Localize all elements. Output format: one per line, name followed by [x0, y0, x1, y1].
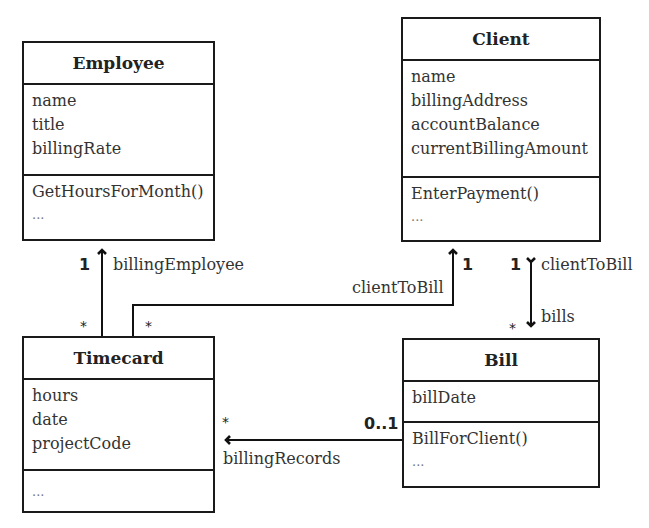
class-employee-operations: GetHoursForMonth() ... — [24, 176, 213, 230]
role-billing-employee: billingEmployee — [113, 255, 244, 274]
multiplicity-bill: * — [509, 320, 516, 336]
operation-ellipsis: ... — [412, 451, 590, 473]
operation-ellipsis: ... — [32, 204, 205, 226]
class-bill-attributes: billDate — [404, 382, 598, 423]
attribute: hours — [32, 384, 205, 408]
multiplicity-client-bill: 1 — [510, 255, 521, 274]
multiplicity-timecard-client: * — [145, 318, 152, 334]
attribute: currentBillingAmount — [411, 137, 591, 161]
attribute: date — [32, 408, 205, 432]
class-employee[interactable]: Employee name title billingRate GetHours… — [22, 41, 215, 241]
role-client-to-bill-2: clientToBill — [541, 255, 633, 274]
multiplicity-bill-source: 0..1 — [364, 414, 398, 433]
attribute: billingAddress — [411, 89, 591, 113]
operation: BillForClient() — [412, 427, 590, 451]
operation: EnterPayment() — [411, 182, 591, 206]
class-bill-name: Bill — [404, 340, 598, 382]
role-client-to-bill: clientToBill — [352, 278, 444, 297]
attribute: title — [32, 113, 205, 137]
attribute: projectCode — [32, 432, 205, 456]
role-billing-records: billingRecords — [223, 449, 340, 468]
attribute: accountBalance — [411, 113, 591, 137]
role-bills: bills — [541, 307, 575, 326]
class-client-name: Client — [403, 19, 599, 61]
class-timecard-attributes: hours date projectCode — [24, 380, 213, 471]
class-timecard[interactable]: Timecard hours date projectCode ... — [22, 336, 215, 513]
class-client-operations: EnterPayment() ... — [403, 178, 599, 232]
attribute: name — [32, 89, 205, 113]
class-employee-name: Employee — [24, 43, 213, 85]
operation-ellipsis: ... — [32, 481, 205, 503]
multiplicity-timecard-employee: * — [80, 318, 87, 334]
class-bill[interactable]: Bill billDate BillForClient() ... — [402, 338, 600, 488]
attribute: billingRate — [32, 137, 205, 161]
operation: GetHoursForMonth() — [32, 180, 205, 204]
class-timecard-name: Timecard — [24, 338, 213, 380]
attribute: billDate — [412, 386, 590, 410]
multiplicity-client: 1 — [462, 255, 473, 274]
class-client-attributes: name billingAddress accountBalance curre… — [403, 61, 599, 178]
class-employee-attributes: name title billingRate — [24, 85, 213, 176]
class-bill-operations: BillForClient() ... — [404, 423, 598, 477]
attribute: name — [411, 65, 591, 89]
multiplicity-employee: 1 — [79, 255, 90, 274]
class-timecard-operations: ... — [24, 471, 213, 507]
class-client[interactable]: Client name billingAddress accountBalanc… — [401, 17, 601, 242]
operation-ellipsis: ... — [411, 206, 591, 228]
multiplicity-billing-records: * — [222, 414, 229, 430]
